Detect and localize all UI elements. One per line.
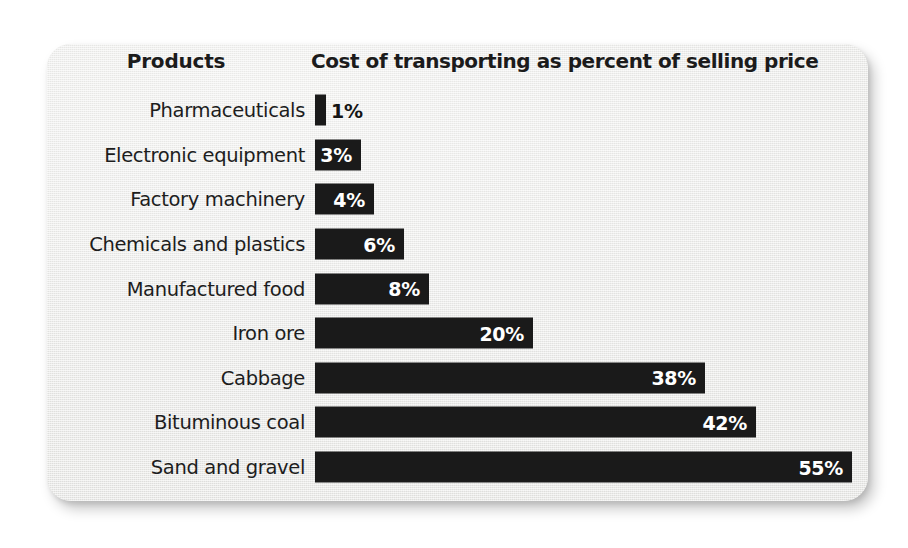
category-label: Iron ore xyxy=(47,322,305,345)
chart-row: Sand and gravel55% xyxy=(47,445,868,490)
bar-track: 6% xyxy=(315,229,868,260)
bar: 4% xyxy=(315,184,374,215)
bar-track: 42% xyxy=(315,407,868,438)
bar-value-label: 3% xyxy=(320,144,361,166)
chart-header-row: Products Cost of transporting as percent… xyxy=(47,49,868,83)
bar: 8% xyxy=(315,273,429,304)
bar-value-label: 8% xyxy=(388,278,429,300)
bar: 6% xyxy=(315,229,404,260)
category-label: Sand and gravel xyxy=(47,456,305,479)
bar: 3% xyxy=(315,139,361,170)
category-label: Pharmaceuticals xyxy=(47,99,305,122)
chart-row: Bituminous coal42% xyxy=(47,400,868,445)
bar-value-label: 6% xyxy=(363,233,404,255)
bar-value-label: 1% xyxy=(331,99,363,121)
bar-track: 1% xyxy=(315,95,868,126)
chart-row: Electronic equipment3% xyxy=(47,133,868,178)
chart-row: Manufactured food8% xyxy=(47,266,868,311)
bar-value-label: 55% xyxy=(798,456,852,478)
bar-track: 3% xyxy=(315,139,868,170)
bar: 55% xyxy=(315,452,852,483)
bar-track: 8% xyxy=(315,273,868,304)
category-label: Cabbage xyxy=(47,366,305,389)
bar-track: 38% xyxy=(315,362,868,393)
category-label: Factory machinery xyxy=(47,188,305,211)
bar: 38% xyxy=(315,362,705,393)
category-label: Manufactured food xyxy=(47,277,305,300)
bar: 42% xyxy=(315,407,756,438)
chart-rows: Pharmaceuticals1%Electronic equipment3%F… xyxy=(47,88,868,489)
category-label: Electronic equipment xyxy=(47,143,305,166)
chart-body: Products Cost of transporting as percent… xyxy=(47,44,868,501)
chart-row: Cabbage38% xyxy=(47,356,868,401)
bar-value-label: 38% xyxy=(651,367,705,389)
category-label: Bituminous coal xyxy=(47,411,305,434)
bar: 1% xyxy=(315,95,326,126)
bar-value-label: 4% xyxy=(333,188,374,210)
bar: 20% xyxy=(315,318,533,349)
bar-track: 4% xyxy=(315,184,868,215)
chart-row: Pharmaceuticals1% xyxy=(47,88,868,133)
chart-row: Iron ore20% xyxy=(47,311,868,356)
bar-track: 20% xyxy=(315,318,868,349)
chart-row: Chemicals and plastics6% xyxy=(47,222,868,267)
bar-track: 55% xyxy=(315,452,868,483)
bar-value-label: 20% xyxy=(479,322,533,344)
value-column-header: Cost of transporting as percent of selli… xyxy=(311,49,863,73)
chart-row: Factory machinery4% xyxy=(47,177,868,222)
products-column-header: Products xyxy=(47,49,305,73)
chart-card: Products Cost of transporting as percent… xyxy=(47,44,868,501)
category-label: Chemicals and plastics xyxy=(47,233,305,256)
bar-value-label: 42% xyxy=(702,411,756,433)
